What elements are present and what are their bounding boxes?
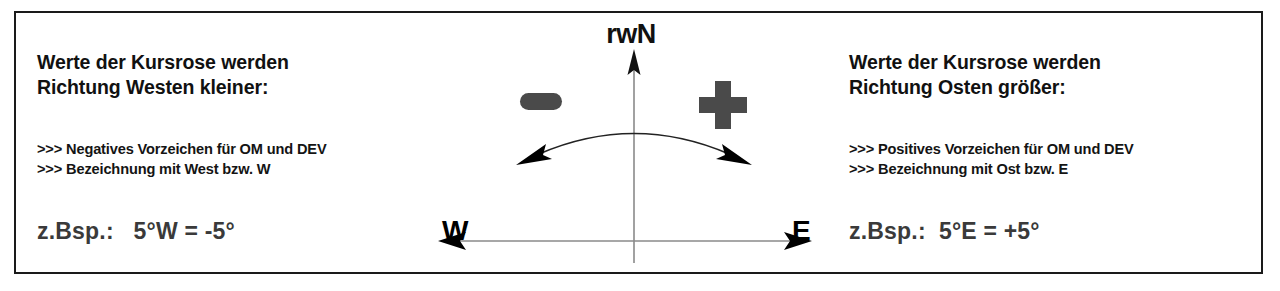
plus-sign-icon [699,81,747,129]
east-explanation-panel: Werte der Kursrose werden Richtung Osten… [849,13,1249,272]
west-explanation-panel: Werte der Kursrose werden Richtung Weste… [37,13,417,272]
arc-west-arrowhead-icon [516,144,552,165]
minus-sign-icon [520,93,562,110]
compass-diagram: rwN W E [416,13,846,272]
east-panel-bullets: >>> Positives Vorzeichen für OM und DEV … [849,139,1134,179]
west-panel-example: z.Bsp.: 5°W = -5° [37,218,235,245]
east-axis-label: E [792,217,811,245]
compass-axes-svg [416,13,846,291]
arc-east-arrowhead-icon [716,144,752,165]
west-panel-bullets: >>> Negatives Vorzeichen für OM und DEV … [37,139,326,179]
east-panel-example: z.Bsp.: 5°E = +5° [849,218,1040,245]
west-panel-heading: Werte der Kursrose werden Richtung Weste… [37,50,289,100]
east-panel-heading: Werte der Kursrose werden Richtung Osten… [849,50,1101,100]
figure-frame: Werte der Kursrose werden Richtung Weste… [14,11,1263,274]
west-axis-label: W [442,217,468,245]
